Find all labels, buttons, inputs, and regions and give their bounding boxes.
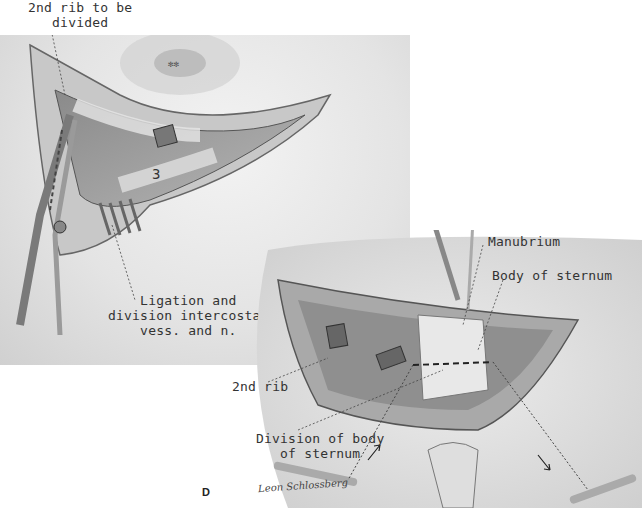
label-body-of-sternum: Body of sternum: [492, 268, 612, 283]
label-manubrium: Manubrium: [488, 234, 560, 249]
label-2nd-rib: 2nd rib: [232, 379, 288, 394]
label-division-of-body-of-sternum: Division of body of sternum: [256, 431, 384, 461]
label-2nd-rib-to-be-divided: 2nd rib to be divided: [28, 0, 132, 30]
region-number-label: 3: [152, 167, 161, 182]
figure-letter: D: [202, 486, 210, 498]
svg-text:✻✻: ✻✻: [168, 59, 179, 69]
